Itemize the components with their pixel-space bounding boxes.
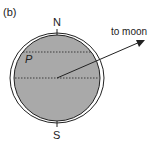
point-p-label: P xyxy=(25,53,33,65)
north-label: N xyxy=(53,16,61,28)
to-moon-label: to moon xyxy=(111,26,147,37)
tide-diagram: (b) N S P to moon xyxy=(0,0,151,146)
panel-label: (b) xyxy=(3,6,16,18)
south-label: S xyxy=(53,129,60,141)
